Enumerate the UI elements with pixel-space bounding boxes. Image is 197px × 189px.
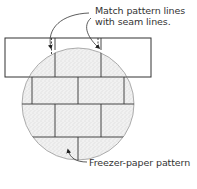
pattern-callout-line-1: Freezer-paper pattern [89, 157, 190, 168]
seam-callout-line-2: with seam lines. [95, 16, 185, 27]
seam-callout-line-1: Match pattern lines [95, 5, 185, 16]
pattern-callout-label: Freezer-paper pattern [89, 157, 190, 168]
seam-callout-label: Match pattern lines with seam lines. [95, 5, 185, 27]
